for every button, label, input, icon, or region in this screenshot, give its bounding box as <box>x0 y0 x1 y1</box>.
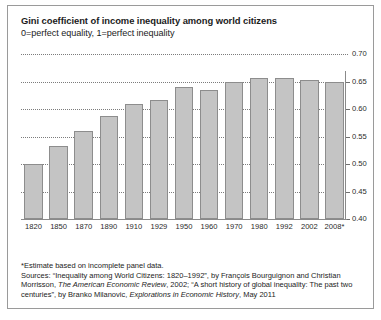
bar-1960 <box>200 90 219 219</box>
x-axis-label-1870: 1870 <box>71 222 96 231</box>
bar-1950 <box>175 87 194 219</box>
x-axis-label-1992: 1992 <box>272 222 297 231</box>
bar-1890 <box>100 116 119 219</box>
x-axis-label-1950: 1950 <box>171 222 196 231</box>
x-axis-label-1970: 1970 <box>222 222 247 231</box>
y-axis-label-0.60: 0.60 <box>352 104 367 113</box>
x-axis-label-2002: 2002 <box>297 222 322 231</box>
bar-2008 <box>325 82 344 220</box>
bar-1910 <box>125 104 144 220</box>
x-axis-label-1850: 1850 <box>46 222 71 231</box>
bars-layer <box>21 48 347 219</box>
chart-figure: Gini coefficient of income inequality am… <box>7 5 374 309</box>
y-axis-label-0.40: 0.40 <box>352 214 367 223</box>
y-axis-label-0.70: 0.70 <box>352 49 367 58</box>
x-axis-label-1929: 1929 <box>146 222 171 231</box>
plot-area: 0.400.450.500.550.600.650.70 18201850187… <box>21 48 362 242</box>
x-axis-label-1960: 1960 <box>197 222 222 231</box>
bar-2002 <box>300 80 319 219</box>
estimate-footnote: *Estimate based on incomplete panel data… <box>21 261 361 271</box>
x-axis-label-1980: 1980 <box>247 222 272 231</box>
y-axis-label-0.55: 0.55 <box>352 132 367 141</box>
sources-journal-1: The American Economic Review <box>58 280 166 289</box>
chart-subtitle: 0=perfect equality, 1=perfect inequality <box>21 27 361 39</box>
x-axis-labels: 1820185018701890191019291950196019701980… <box>21 222 347 236</box>
bar-1970 <box>225 82 244 220</box>
y-axis-label-0.45: 0.45 <box>352 187 367 196</box>
bar-1992 <box>275 78 294 219</box>
y-axis-label-0.50: 0.50 <box>352 159 367 168</box>
sources-line2-a: Morrisson, <box>21 280 58 289</box>
x-axis-label-1890: 1890 <box>96 222 121 231</box>
sources-journal-2: Explorations in Economic History <box>129 290 239 299</box>
sources-line1: Sources: “Inequality among World Citizen… <box>21 271 341 280</box>
bar-1980 <box>250 78 269 219</box>
sources-line2-b: , 2002; “A short history of global inequ… <box>166 280 338 289</box>
page-title: Gini coefficient of income inequality am… <box>21 15 361 27</box>
y-axis-line <box>345 71 346 219</box>
bar-1850 <box>49 146 68 219</box>
x-axis-label-2008: 2008* <box>322 222 347 231</box>
bar-1870 <box>74 131 93 219</box>
y-axis-label-0.65: 0.65 <box>352 77 367 86</box>
sources-note: Sources: “Inequality among World Citizen… <box>21 271 361 300</box>
footnotes: *Estimate based on incomplete panel data… <box>21 261 361 299</box>
bar-1820 <box>24 164 43 219</box>
x-axis-line <box>21 219 347 220</box>
sources-line3-b: , May 2011 <box>239 290 276 299</box>
x-axis-label-1910: 1910 <box>121 222 146 231</box>
title-block: Gini coefficient of income inequality am… <box>21 15 361 39</box>
x-axis-label-1820: 1820 <box>21 222 46 231</box>
bar-1929 <box>150 100 169 219</box>
